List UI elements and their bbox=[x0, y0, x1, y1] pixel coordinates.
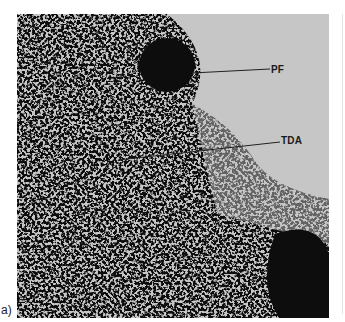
lower-right-nodule bbox=[267, 230, 329, 319]
pf-nodule bbox=[139, 38, 195, 92]
pf-label: PF bbox=[271, 64, 284, 75]
tda-label: TDA bbox=[281, 135, 302, 146]
page-edge-divider bbox=[342, 14, 343, 314]
micrograph-image bbox=[17, 14, 329, 318]
panel-label: a) bbox=[1, 303, 12, 317]
figure: PF TDA a) bbox=[0, 0, 345, 322]
tissue-texture bbox=[17, 14, 329, 318]
